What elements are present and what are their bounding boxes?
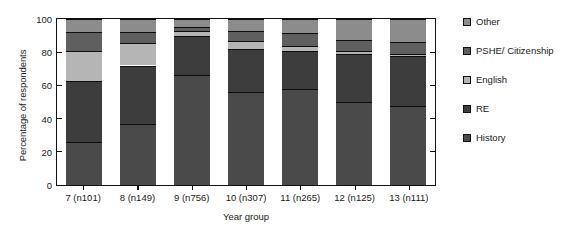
stacked-bar-chart: Percentage of respondents 020406080100 7… xyxy=(0,0,567,246)
bar-segment xyxy=(336,40,372,51)
bars-layer xyxy=(57,19,435,185)
legend-item-label: History xyxy=(476,133,506,143)
x-tick-mark xyxy=(192,186,193,190)
bar-segment xyxy=(120,124,156,185)
bar-segment xyxy=(66,19,102,32)
plot-area: 020406080100 xyxy=(56,18,436,186)
bar-segment xyxy=(228,19,264,31)
legend-swatch-icon xyxy=(463,105,471,113)
bar-segment xyxy=(282,51,318,89)
bar-segment xyxy=(282,33,318,45)
bar-segment xyxy=(66,51,102,81)
bar-segment xyxy=(390,19,426,42)
bar-segment xyxy=(120,66,156,125)
bar-segment xyxy=(282,89,318,185)
y-axis-title: Percentage of respondents xyxy=(17,16,28,196)
bar-segment xyxy=(228,92,264,185)
y-tick-label: 80 xyxy=(41,47,52,58)
bar-segment xyxy=(228,49,264,92)
x-tick-label: 9 (n756) xyxy=(174,192,209,203)
bar-segment xyxy=(174,27,210,31)
bar-segment xyxy=(174,36,210,76)
bar-segment xyxy=(66,32,102,51)
x-tick-label: 8 (n149) xyxy=(120,192,155,203)
bar-stack xyxy=(390,19,426,185)
x-tick-mark xyxy=(246,186,247,190)
legend-item[interactable]: English xyxy=(463,75,507,85)
bar-stack xyxy=(66,19,102,185)
legend-item[interactable]: RE xyxy=(463,104,489,114)
bar-segment xyxy=(228,41,264,49)
x-tick-mark xyxy=(409,186,410,190)
bar-segment xyxy=(174,31,210,35)
x-axis-title: Year group xyxy=(56,211,436,222)
bar-stack xyxy=(228,19,264,185)
bar-segment xyxy=(174,19,210,27)
bar-segment xyxy=(174,75,210,185)
y-tick-label: 20 xyxy=(41,146,52,157)
legend-swatch-icon xyxy=(463,18,471,26)
legend-item-label: English xyxy=(476,75,507,85)
bar-segment xyxy=(336,51,372,54)
bar-segment xyxy=(390,42,426,54)
bar-segment xyxy=(120,43,156,65)
x-tick-label: 10 (n307) xyxy=(226,192,267,203)
bar-segment xyxy=(120,19,156,32)
x-tick-label: 7 (n101) xyxy=(65,192,100,203)
x-tick-mark xyxy=(137,186,138,190)
x-tick-mark xyxy=(300,186,301,190)
bar-segment xyxy=(282,46,318,51)
x-tick-mark xyxy=(83,186,84,190)
x-tick-label: 13 (n111) xyxy=(389,192,428,203)
legend-item-label: PSHE/ Citizenship xyxy=(476,46,554,56)
bar-segment xyxy=(66,81,102,142)
legend-swatch-icon xyxy=(463,47,471,55)
bar-segment xyxy=(390,54,426,56)
bar-segment xyxy=(390,106,426,185)
bar-segment xyxy=(336,54,372,102)
bar-segment xyxy=(66,142,102,185)
legend-swatch-icon xyxy=(463,76,471,84)
legend-item[interactable]: Other xyxy=(463,17,500,27)
bar-segment xyxy=(282,19,318,33)
legend-item[interactable]: PSHE/ Citizenship xyxy=(463,46,554,56)
bar-segment xyxy=(336,19,372,40)
bar-stack xyxy=(282,19,318,185)
x-tick-mark xyxy=(355,186,356,190)
legend-item-label: Other xyxy=(476,17,500,27)
x-tick-label: 12 (n125) xyxy=(334,192,375,203)
legend-item[interactable]: History xyxy=(463,133,506,143)
y-tick-label: 100 xyxy=(36,14,52,25)
bar-stack xyxy=(336,19,372,185)
bar-segment xyxy=(120,32,156,43)
bar-segment xyxy=(336,102,372,185)
bar-segment xyxy=(390,56,426,106)
x-tick-label: 11 (n265) xyxy=(280,192,320,203)
bar-stack xyxy=(174,19,210,185)
y-tick-label: 60 xyxy=(41,80,52,91)
y-tick-label: 0 xyxy=(47,180,52,191)
bar-stack xyxy=(120,19,156,185)
bar-segment xyxy=(228,31,264,41)
y-tick-label: 40 xyxy=(41,113,52,124)
legend-swatch-icon xyxy=(463,134,471,142)
legend-item-label: RE xyxy=(476,104,489,114)
